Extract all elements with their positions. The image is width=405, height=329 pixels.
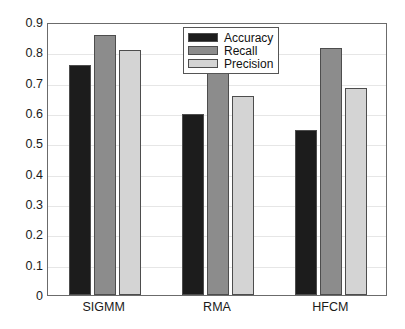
legend-label: Precision <box>224 58 273 70</box>
legend-item-recall: Recall <box>188 44 273 57</box>
y-axis-tick-label: 0.3 <box>3 199 43 212</box>
x-axis-label-hfcm: HFCM <box>312 300 348 314</box>
chart-legend: AccuracyRecallPrecision <box>183 27 279 74</box>
legend-swatch-recall <box>188 46 218 55</box>
y-axis-tick-label: 0.7 <box>3 77 43 90</box>
legend-label: Recall <box>224 45 257 57</box>
y-axis-tick-label: 0.6 <box>3 108 43 121</box>
y-axis-tick-label: 0 <box>3 290 43 303</box>
bar-recall-sigmm <box>94 35 116 295</box>
legend-item-precision: Precision <box>188 57 273 70</box>
bar-precision-rma <box>232 96 254 295</box>
legend-swatch-precision <box>188 59 218 68</box>
bar-accuracy-rma <box>182 114 204 295</box>
bar-accuracy-sigmm <box>69 65 91 295</box>
bar-chart-figure: 00.10.20.30.40.50.60.70.80.9 SIGMMRMAHFC… <box>0 0 405 329</box>
bar-precision-hfcm <box>345 88 367 295</box>
y-axis-tick-label: 0.5 <box>3 138 43 151</box>
y-axis-tick-label: 0.9 <box>3 17 43 30</box>
legend-label: Accuracy <box>224 32 273 44</box>
legend-item-accuracy: Accuracy <box>188 31 273 44</box>
y-axis-tick-labels: 00.10.20.30.40.50.60.70.80.9 <box>0 0 43 329</box>
bar-precision-sigmm <box>119 50 141 295</box>
x-axis-label-rma: RMA <box>203 300 231 314</box>
bar-recall-hfcm <box>320 48 342 295</box>
x-axis-label-sigmm: SIGMM <box>82 300 124 314</box>
bar-accuracy-hfcm <box>295 130 317 295</box>
y-axis-tick-label: 0.8 <box>3 47 43 60</box>
bar-recall-rma <box>207 69 229 295</box>
y-axis-tick-label: 0.2 <box>3 229 43 242</box>
y-axis-tick-label: 0.1 <box>3 259 43 272</box>
y-axis-tick-label: 0.4 <box>3 168 43 181</box>
legend-swatch-accuracy <box>188 33 218 42</box>
